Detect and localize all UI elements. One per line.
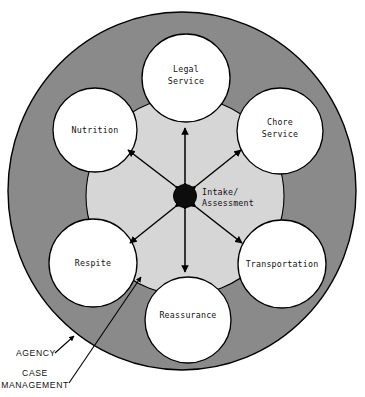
callout-case-management-line2: MANAGEMENT	[1, 380, 69, 390]
hub-label-line2: Assessment	[202, 198, 254, 208]
callout-case-management-line1: CASE	[22, 368, 48, 378]
callout-agency: AGENCY	[16, 348, 56, 358]
service-label-line2: Service	[168, 76, 204, 86]
hub-label-line1: Intake/	[202, 187, 238, 197]
service-label-line1: Respite	[75, 258, 111, 268]
service-label-reassurance: Reassurance	[159, 310, 216, 320]
service-label-transportation: Transportation	[246, 259, 319, 269]
service-label-line1: Reassurance	[159, 310, 216, 320]
service-label-line1: Legal	[173, 64, 199, 74]
callout-case-management: CASE MANAGEMENT	[1, 368, 69, 390]
service-label-line1: Chore	[267, 117, 293, 127]
service-circle-reassurance[interactable]	[145, 277, 231, 363]
hub-intake-assessment-dot[interactable]	[174, 185, 197, 208]
service-label-respite: Respite	[75, 258, 111, 268]
service-label-line1: Nutrition	[72, 125, 119, 135]
diagram-root: Intake/ Assessment Legal Service Chore S…	[0, 0, 365, 397]
service-label-nutrition: Nutrition	[72, 125, 119, 135]
service-label-line1: Transportation	[246, 259, 319, 269]
diagram-canvas: Intake/ Assessment Legal Service Chore S…	[0, 0, 365, 397]
agency-leader-line	[55, 336, 74, 353]
callout-agency-label: AGENCY	[16, 348, 56, 358]
service-label-line2: Service	[262, 129, 298, 139]
